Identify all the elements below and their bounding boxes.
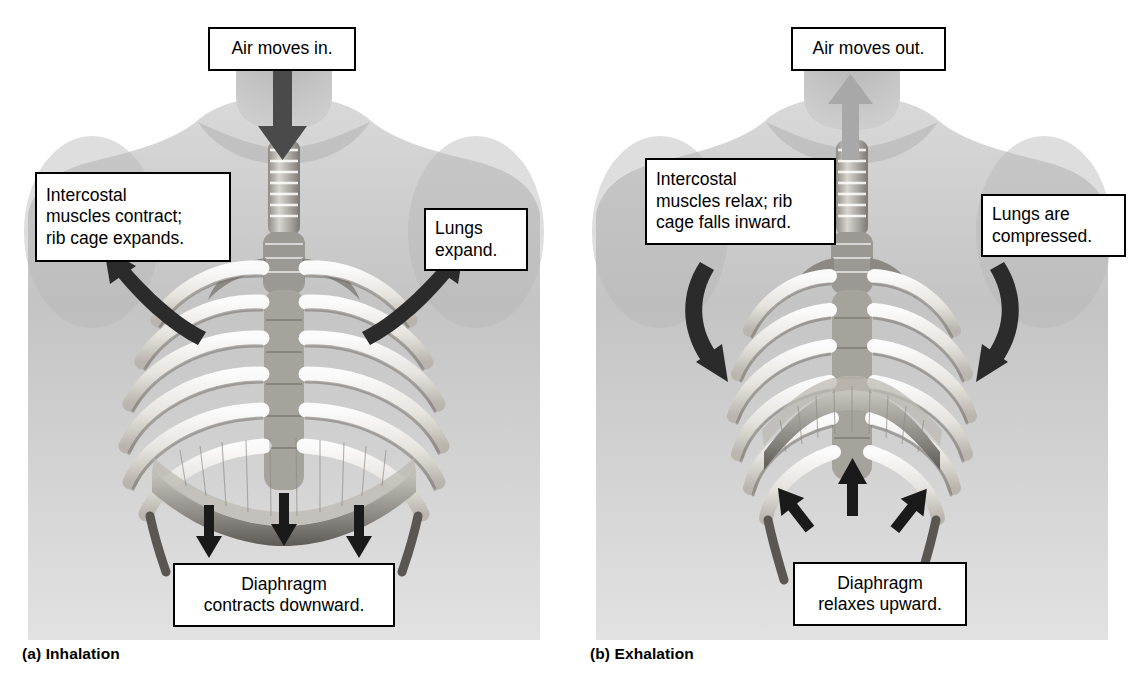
trachea: [263, 140, 305, 294]
callout-diaphragm-contracts: Diaphragm contracts downward.: [173, 563, 395, 627]
breathing-mechanics-figure: Air moves in. Intercostal muscles contra…: [0, 0, 1136, 682]
panel-exhalation: Air moves out. Intercostal muscles relax…: [568, 0, 1136, 682]
callout-intercostal-relax: Intercostal muscles relax; rib cage fall…: [645, 158, 836, 245]
trachea: [831, 140, 873, 294]
exhalation-illustration: [568, 0, 1136, 640]
callout-diaphragm-relaxes: Diaphragm relaxes upward.: [793, 562, 967, 626]
callout-intercostal-contract: Intercostal muscles contract; rib cage e…: [35, 172, 231, 262]
panel-caption-inhalation: (a) Inhalation: [22, 645, 120, 663]
callout-lungs-compressed: Lungs are compressed.: [981, 194, 1126, 257]
inhalation-illustration: [0, 0, 568, 640]
callout-lungs-expand: Lungs expand.: [424, 208, 528, 271]
panel-caption-exhalation: (b) Exhalation: [590, 645, 694, 663]
callout-air-moves-in: Air moves in.: [208, 27, 356, 71]
panel-inhalation: Air moves in. Intercostal muscles contra…: [0, 0, 568, 682]
callout-air-moves-out: Air moves out.: [791, 27, 946, 71]
